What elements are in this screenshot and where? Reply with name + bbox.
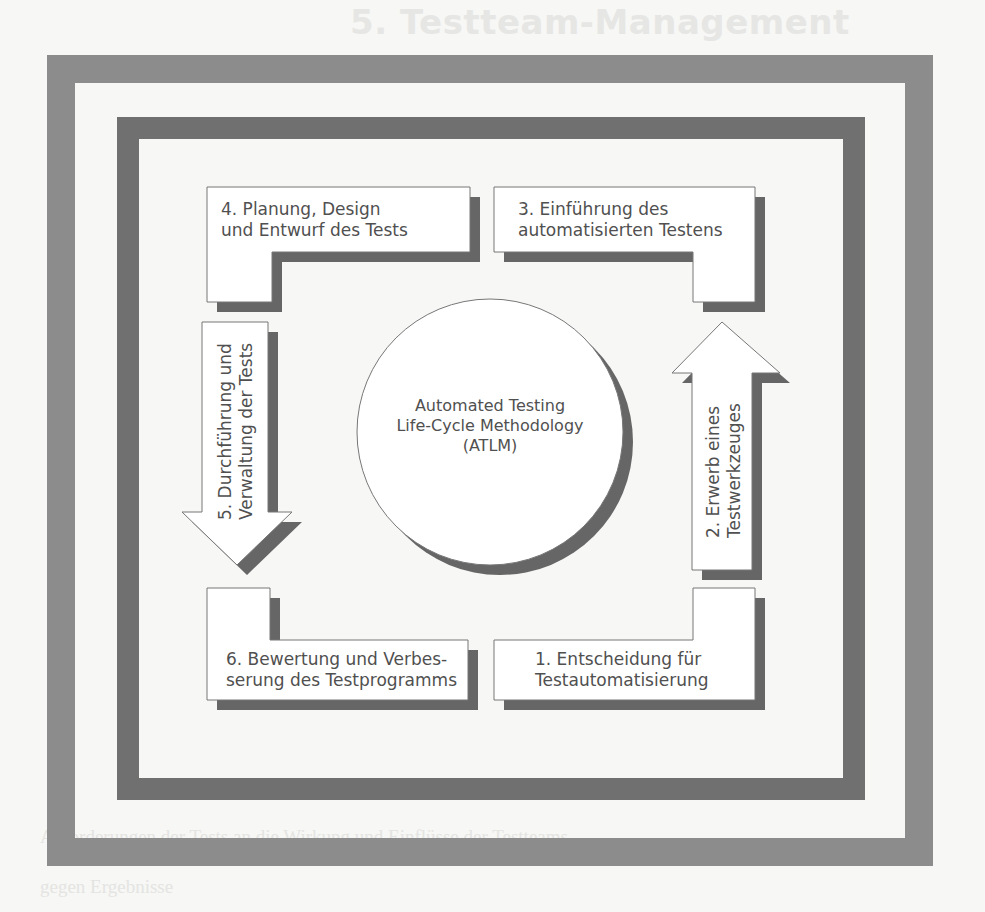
step-4-label: 4. Planung, Design und Entwurf des Tests xyxy=(221,199,408,241)
center-label: Automated Testing Life-Cycle Methodology… xyxy=(370,396,610,456)
step-3-label: 3. Einführung des automatisierten Testen… xyxy=(518,199,723,241)
step-5-label: 5. Durchführung und Verwaltung der Tests xyxy=(215,343,257,520)
step-2-label: 2. Erwerb eines Testwerkzeuges xyxy=(703,403,745,538)
step-6-label: 6. Bewertung und Verbes- serung des Test… xyxy=(226,649,457,691)
atlm-diagram xyxy=(0,0,985,912)
step-1-label: 1. Entscheidung für Testautomatisierung xyxy=(535,649,708,691)
